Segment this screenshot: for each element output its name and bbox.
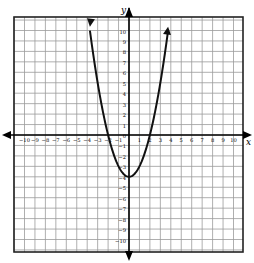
svg-text:5: 5 xyxy=(123,81,126,87)
curve-end-arrow-icon xyxy=(87,18,95,26)
svg-text:9: 9 xyxy=(221,137,224,143)
svg-text:6: 6 xyxy=(123,70,126,76)
svg-text:−10: −10 xyxy=(115,238,126,244)
svg-text:9: 9 xyxy=(123,39,126,45)
arrow-left-icon xyxy=(2,131,11,139)
svg-text:−1: −1 xyxy=(115,137,123,143)
svg-text:4: 4 xyxy=(169,137,173,143)
arrow-up-icon xyxy=(125,7,133,17)
arrow-down-icon xyxy=(125,251,133,261)
svg-text:3: 3 xyxy=(123,102,126,108)
svg-text:2: 2 xyxy=(123,112,126,118)
axes xyxy=(2,7,252,261)
svg-text:−10: −10 xyxy=(19,137,30,143)
y-axis-label: y xyxy=(120,5,127,15)
tick-labels: −10−9−8−7−6−5−4−3−2−11234567891010987654… xyxy=(19,29,237,244)
svg-text:10: 10 xyxy=(230,137,237,143)
svg-text:0: 0 xyxy=(123,133,126,139)
svg-text:8: 8 xyxy=(211,137,214,143)
svg-text:−7: −7 xyxy=(118,206,126,212)
svg-text:4: 4 xyxy=(123,91,127,97)
svg-text:−9: −9 xyxy=(31,137,39,143)
x-axis-label: x xyxy=(246,137,251,147)
svg-text:−5: −5 xyxy=(73,137,81,143)
svg-text:−4: −4 xyxy=(83,137,91,143)
svg-text:−5: −5 xyxy=(118,185,126,191)
svg-text:−1: −1 xyxy=(118,143,126,149)
svg-text:−3: −3 xyxy=(94,137,102,143)
svg-text:−6: −6 xyxy=(118,196,126,202)
svg-text:−7: −7 xyxy=(52,137,60,143)
svg-text:−2: −2 xyxy=(118,154,126,160)
svg-text:7: 7 xyxy=(200,137,203,143)
svg-text:1: 1 xyxy=(123,123,126,129)
svg-text:−8: −8 xyxy=(118,217,126,223)
svg-text:5: 5 xyxy=(180,137,183,143)
svg-text:8: 8 xyxy=(123,49,126,55)
svg-text:1: 1 xyxy=(138,137,141,143)
svg-text:3: 3 xyxy=(159,137,162,143)
svg-text:−8: −8 xyxy=(42,137,50,143)
coordinate-plane: −10−9−8−7−6−5−4−3−2−11234567891010987654… xyxy=(0,0,254,263)
svg-text:−9: −9 xyxy=(118,227,126,233)
svg-text:10: 10 xyxy=(119,29,126,35)
svg-text:−6: −6 xyxy=(62,137,70,143)
svg-text:7: 7 xyxy=(123,60,126,66)
svg-text:6: 6 xyxy=(190,137,193,143)
